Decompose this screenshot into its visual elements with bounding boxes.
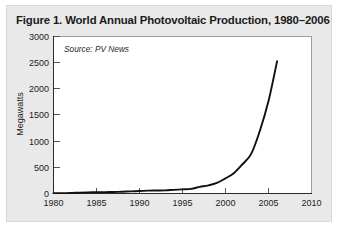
- y-tick-label-1500: 1500: [29, 110, 49, 120]
- y-tick-label-1000: 1000: [29, 137, 49, 147]
- y-axis-title: Megawatts: [15, 92, 25, 136]
- x-tick-label-2005: 2005: [258, 198, 278, 208]
- y-tick-label-2000: 2000: [29, 84, 49, 94]
- x-tick-label-1995: 1995: [172, 198, 192, 208]
- figure-card: Figure 1. World Annual Photovoltaic Prod…: [6, 5, 332, 222]
- x-tick-label-2010: 2010: [301, 198, 321, 208]
- plot-background: [53, 36, 311, 193]
- x-tick-label-1980: 1980: [43, 198, 63, 208]
- photovoltaic-production-line-chart: 3000 2500 2000 1500 1000 500 0 1980 1985…: [7, 6, 333, 223]
- chart-plot-area: 3000 2500 2000 1500 1000 500 0 1980 1985…: [7, 6, 333, 223]
- y-tick-label-3000: 3000: [29, 32, 49, 42]
- y-tick-label-2500: 2500: [29, 58, 49, 68]
- x-tick-label-1985: 1985: [86, 198, 106, 208]
- y-tick-label-500: 500: [34, 163, 49, 173]
- x-tick-label-1990: 1990: [129, 198, 149, 208]
- source-note: Source: PV News: [64, 44, 129, 54]
- x-tick-label-2000: 2000: [215, 198, 235, 208]
